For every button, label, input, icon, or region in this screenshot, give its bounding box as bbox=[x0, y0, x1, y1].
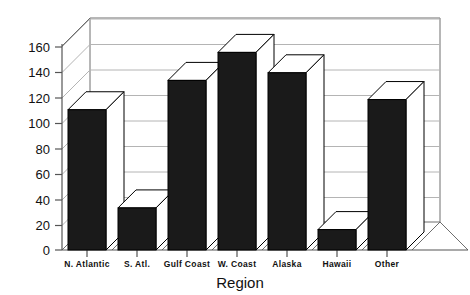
y-axis-ticks bbox=[55, 47, 62, 250]
y-tick-label-0: 0 bbox=[43, 243, 50, 258]
category-label-hawaii: Hawaii bbox=[322, 259, 351, 269]
y-tick-label-40: 40 bbox=[36, 193, 50, 208]
category-label-w-coast: W. Coast bbox=[218, 259, 257, 269]
bar-s-atl bbox=[118, 190, 174, 250]
category-label-other: Other bbox=[375, 259, 400, 269]
y-tick-label-60: 60 bbox=[36, 167, 50, 182]
y-tick-label-160: 160 bbox=[28, 40, 50, 55]
x-category-labels: N. Atlantic S. Atl. Gulf Coast W. Coast … bbox=[64, 259, 399, 269]
x-axis-ticks bbox=[87, 250, 387, 257]
bar-other bbox=[368, 82, 424, 250]
bar-alaska bbox=[268, 55, 324, 250]
bar-gulf-coast bbox=[168, 62, 224, 250]
y-tick-label-120: 120 bbox=[28, 91, 50, 106]
category-label-gulf-coast: Gulf Coast bbox=[164, 259, 210, 269]
category-label-alaska: Alaska bbox=[272, 259, 302, 269]
y-tick-label-80: 80 bbox=[36, 142, 50, 157]
x-axis-title: Region bbox=[216, 274, 264, 291]
bar-chart-figure: 0 20 40 60 80 100 120 140 160 bbox=[0, 0, 470, 295]
category-label-n-atlantic: N. Atlantic bbox=[64, 259, 110, 269]
bar-n-atlantic bbox=[68, 92, 124, 250]
chart-canvas: 0 20 40 60 80 100 120 140 160 bbox=[0, 0, 470, 295]
category-label-s-atl: S. Atl. bbox=[124, 259, 150, 269]
y-tick-label-20: 20 bbox=[36, 218, 50, 233]
y-tick-label-100: 100 bbox=[28, 116, 50, 131]
y-tick-label-140: 140 bbox=[28, 65, 50, 80]
bar-w-coast bbox=[218, 34, 274, 250]
y-tick-labels: 0 20 40 60 80 100 120 140 160 bbox=[28, 40, 50, 258]
